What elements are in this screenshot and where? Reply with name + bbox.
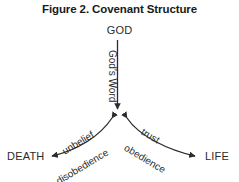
edge-label-gods-word: God's Word xyxy=(107,50,118,102)
node-god: GOD xyxy=(0,24,239,36)
covenant-structure-figure: Figure 2. Covenant Structure GOD DEATH L… xyxy=(0,0,239,182)
node-death: DEATH xyxy=(7,150,44,162)
node-life: LIFE xyxy=(205,150,229,162)
